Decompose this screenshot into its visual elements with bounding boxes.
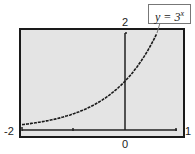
function-curve bbox=[22, 34, 157, 124]
x-min-label: -2 bbox=[4, 125, 14, 137]
function-label-exponent: x bbox=[180, 9, 184, 18]
origin-label: 0 bbox=[122, 138, 128, 150]
function-label: y = 3x bbox=[148, 4, 191, 24]
y-max-label: 2 bbox=[122, 16, 128, 28]
function-label-text: y = 3 bbox=[155, 10, 180, 24]
x-max-label: 1 bbox=[185, 125, 191, 137]
